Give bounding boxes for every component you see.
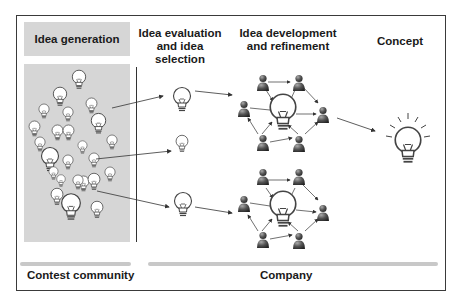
selection-arrows xyxy=(96,96,171,207)
concept-bulb xyxy=(386,113,430,162)
process-diagram xyxy=(0,0,463,307)
footer-company: Company xyxy=(260,269,312,281)
contest-community-bar xyxy=(20,262,131,266)
crowd-bulbs xyxy=(29,70,117,219)
refinement-network-2 xyxy=(238,169,329,249)
development-arrows xyxy=(195,91,232,213)
footer-contest-community: Contest community xyxy=(27,269,134,281)
selected-bulb-1 xyxy=(174,88,191,111)
company-bar xyxy=(148,262,438,266)
refinement-network-1 xyxy=(238,75,329,152)
selected-ideas xyxy=(174,88,192,216)
selected-bulb-2 xyxy=(176,135,188,151)
concept-arrow xyxy=(337,118,375,131)
selected-bulb-3 xyxy=(175,193,192,216)
